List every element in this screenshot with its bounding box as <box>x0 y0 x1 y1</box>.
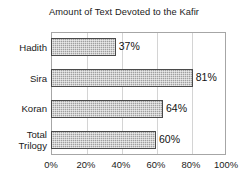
category-label: TotalTrilogy <box>0 129 47 151</box>
category-label-line: Hadith <box>0 42 47 53</box>
chart-title: Amount of Text Devoted to the Kafir <box>0 7 248 17</box>
bar-value-label: 37% <box>119 40 140 52</box>
bar <box>51 131 156 149</box>
x-tick-label: 60% <box>147 159 166 170</box>
x-tick-label: 80% <box>182 159 201 170</box>
x-tick-label: 40% <box>112 159 131 170</box>
bar-chart-figure: Amount of Text Devoted to the Kafir Hadi… <box>0 0 248 185</box>
x-tick-label: 20% <box>77 159 96 170</box>
bar-row: 64% <box>51 100 226 118</box>
x-tick-label: 0% <box>44 159 58 170</box>
category-axis-labels: HadithSiraKoranTotalTrilogy <box>0 32 47 155</box>
bar-row: 37% <box>51 38 226 56</box>
bar <box>51 100 163 118</box>
bar-value-label: 60% <box>159 133 180 145</box>
value-axis-labels: 0%20%40%60%80%100% <box>51 159 226 175</box>
bar-value-label: 81% <box>196 71 217 83</box>
category-label-line: Total <box>0 129 47 140</box>
bar-row: 81% <box>51 69 226 87</box>
category-label: Koran <box>0 103 47 114</box>
category-label-line: Trilogy <box>0 140 47 151</box>
x-tick-label: 100% <box>214 159 238 170</box>
bar-row: 60% <box>51 131 226 149</box>
category-label-line: Koran <box>0 103 47 114</box>
category-label-line: Sira <box>0 73 47 84</box>
category-label: Sira <box>0 73 47 84</box>
bar-value-label: 64% <box>166 102 187 114</box>
bar <box>51 69 193 87</box>
bars-group: 37%81%64%60% <box>51 32 226 155</box>
bar <box>51 38 116 56</box>
category-label: Hadith <box>0 42 47 53</box>
